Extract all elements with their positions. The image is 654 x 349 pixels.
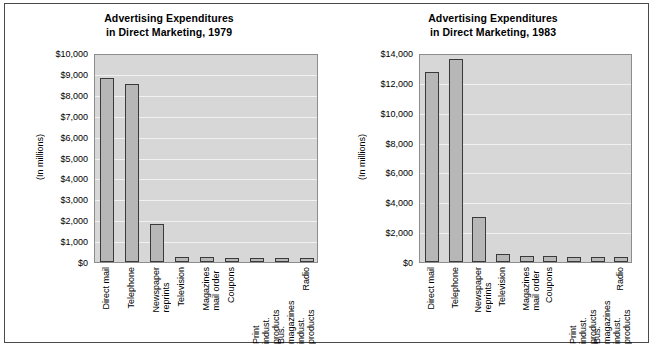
x-axis-tick-label: Radio <box>615 267 625 291</box>
chart-1983-bars <box>420 55 631 262</box>
x-axis-tick-label: Bus. magazines indust. products <box>276 293 316 344</box>
bar <box>275 258 289 262</box>
x-axis-tick-label: Telephone <box>126 267 136 309</box>
chart-1979: Advertising Expenditures in Direct Marke… <box>5 4 335 344</box>
y-axis-tick-label: $2,000 <box>5 217 88 226</box>
x-axis-tick-label: Radio <box>301 267 311 291</box>
bar <box>449 59 463 262</box>
figure-frame: Advertising Expenditures in Direct Marke… <box>4 3 649 343</box>
chart-1979-title: Advertising Expenditures in Direct Marke… <box>19 12 319 39</box>
y-axis-tick-label: $10,000 <box>5 50 88 59</box>
bar <box>225 258 239 262</box>
y-axis-tick-label: $2,000 <box>335 229 413 238</box>
x-axis-tick-label: Coupons <box>544 267 554 303</box>
y-axis-tick-label: $8,000 <box>5 92 88 101</box>
chart-1979-bars <box>95 55 317 262</box>
x-axis-tick-label: Television <box>497 267 507 307</box>
x-axis-tick-label: Magazines mail order <box>521 267 541 311</box>
bar <box>472 217 486 262</box>
chart-1983-plot-area <box>419 54 632 263</box>
x-axis-tick-label: Newspaper reprints <box>151 267 171 313</box>
y-axis-tick-label: $3,000 <box>5 196 88 205</box>
x-axis-tick-label: Coupons <box>226 267 236 303</box>
bar <box>250 258 264 262</box>
y-axis-tick-label: $0 <box>5 259 88 268</box>
y-axis-tick-label: $10,000 <box>335 110 413 119</box>
y-axis-tick-label: $8,000 <box>335 140 413 149</box>
y-axis-tick-label: $4,000 <box>335 199 413 208</box>
y-axis-tick-label: $1,000 <box>5 238 88 247</box>
bar <box>567 257 581 262</box>
bar <box>520 256 534 262</box>
y-axis-tick-label: $4,000 <box>5 175 88 184</box>
y-axis-tick-label: $12,000 <box>335 80 413 89</box>
y-axis-tick-label: $7,000 <box>5 113 88 122</box>
bar <box>543 256 557 262</box>
y-axis-tick-label: $6,000 <box>5 134 88 143</box>
y-axis-tick-label: $14,000 <box>335 50 413 59</box>
bar <box>125 84 139 262</box>
y-axis-tick-label: $9,000 <box>5 71 88 80</box>
x-axis-tick-label: Direct mail <box>101 267 111 310</box>
bar <box>425 72 439 262</box>
x-axis-tick-label: Newspaper reprints <box>473 267 493 313</box>
x-axis-tick-label: Direct mail <box>426 267 436 310</box>
chart-1979-plot-area <box>94 54 318 263</box>
y-axis-tick-label: $6,000 <box>335 169 413 178</box>
bar <box>100 78 114 262</box>
bar <box>175 257 189 262</box>
bar <box>150 224 164 262</box>
chart-1983: Advertising Expenditures in Direct Marke… <box>335 4 649 344</box>
chart-1983-title: Advertising Expenditures in Direct Marke… <box>343 12 643 39</box>
bar <box>300 258 314 262</box>
x-axis-tick-label: Bus. magazines indust. products <box>592 293 632 344</box>
x-axis-tick-label: Magazines mail order <box>201 267 221 311</box>
bar <box>496 254 510 262</box>
bar <box>614 257 628 262</box>
chart-1983-y-axis-label: (In millions) <box>357 122 367 192</box>
y-axis-tick-label: $5,000 <box>5 155 88 164</box>
y-axis-tick-label: $0 <box>335 259 413 268</box>
bar <box>200 257 214 262</box>
x-axis-tick-label: Television <box>176 267 186 307</box>
bar <box>591 257 605 262</box>
x-axis-tick-label: Telephone <box>450 267 460 309</box>
